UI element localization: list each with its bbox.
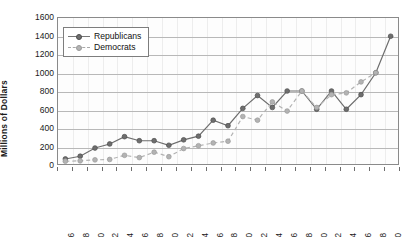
- x-axis-tick: 1983-84: [127, 233, 135, 237]
- x-axis-tick: 2013-14: [350, 233, 358, 237]
- y-axis-tick: 800: [24, 87, 54, 95]
- x-axis-tick-mark: [340, 167, 341, 171]
- x-axis-tick-mark: [354, 167, 355, 171]
- x-axis-tick: 1997-98: [231, 233, 239, 237]
- data-point-republicans: [152, 138, 157, 143]
- x-axis-tick: 2015-16: [365, 233, 373, 237]
- data-point-republicans: [226, 123, 231, 128]
- data-point-republicans: [240, 106, 245, 111]
- y-axis-tick: 400: [24, 124, 54, 132]
- x-axis-tick: 2001-02: [261, 233, 269, 237]
- x-axis-tick: 1991-92: [187, 233, 195, 237]
- y-axis-tick-labels: 16001400120010008006004002000: [20, 0, 54, 237]
- x-axis-tick: 1977-78: [83, 233, 91, 237]
- x-axis-tick-mark: [325, 167, 326, 171]
- x-axis-tick-mark: [399, 167, 400, 171]
- democrats-line-swatch: [68, 43, 90, 52]
- x-axis-tick-mark: [57, 167, 58, 171]
- data-point-democrats: [78, 158, 83, 163]
- x-axis-tick: 1979-80: [98, 233, 106, 237]
- data-point-democrats: [137, 155, 142, 160]
- y-axis-tick: 1000: [24, 69, 54, 77]
- y-axis-tick: 1600: [24, 13, 54, 21]
- data-point-republicans: [255, 93, 260, 98]
- data-point-republicans: [181, 137, 186, 142]
- y-axis-tick: 1400: [24, 32, 54, 40]
- x-axis-tick-mark: [206, 167, 207, 171]
- data-point-democrats: [196, 143, 201, 148]
- x-axis-tick-mark: [384, 167, 385, 171]
- x-axis-tick-mark: [280, 167, 281, 171]
- data-point-republicans: [388, 34, 393, 39]
- x-axis-tick: 2017-18: [380, 233, 388, 237]
- x-axis-tick: 2011-12: [335, 233, 343, 237]
- x-axis-tick-mark: [87, 167, 88, 171]
- republicans-line-swatch: [68, 32, 90, 41]
- data-point-republicans: [359, 92, 364, 97]
- x-axis-tick-mark: [131, 167, 132, 171]
- x-axis-tick: 2019-20: [395, 233, 403, 237]
- legend-label-republicans: Republicans: [94, 31, 141, 42]
- data-point-democrats: [255, 118, 260, 123]
- x-axis-tick: 1975-76: [68, 233, 76, 237]
- legend-label-democrats: Democrats: [94, 42, 136, 53]
- x-axis-tick: 2009-10: [321, 233, 329, 237]
- data-point-democrats: [285, 109, 290, 114]
- x-axis-tick: 2003-04: [276, 233, 284, 237]
- data-point-republicans: [93, 146, 98, 151]
- data-point-republicans: [196, 134, 201, 139]
- data-point-republicans: [107, 142, 112, 147]
- legend-item-republicans: Republicans: [68, 31, 141, 42]
- x-axis-tick-mark: [250, 167, 251, 171]
- data-point-democrats: [270, 100, 275, 105]
- data-point-democrats: [152, 150, 157, 155]
- data-point-republicans: [211, 118, 216, 123]
- series-line-democrats: [65, 73, 375, 161]
- x-axis-tick: 1985-86: [142, 233, 150, 237]
- x-axis-tick-mark: [146, 167, 147, 171]
- x-axis-tick-mark: [72, 167, 73, 171]
- x-axis-tick-mark: [221, 167, 222, 171]
- x-axis-tick: 1999-2000: [246, 233, 254, 237]
- x-axis-tick-mark: [102, 167, 103, 171]
- y-axis-tick: 0: [24, 161, 54, 169]
- data-point-democrats: [93, 157, 98, 162]
- data-point-democrats: [181, 146, 186, 151]
- data-point-republicans: [166, 143, 171, 148]
- x-axis-tick-mark: [265, 167, 266, 171]
- data-point-democrats: [314, 105, 319, 110]
- y-axis-tick: 600: [24, 106, 54, 114]
- data-point-democrats: [329, 92, 334, 97]
- y-axis-tick: 200: [24, 143, 54, 151]
- data-point-republicans: [78, 154, 83, 159]
- data-point-democrats: [107, 157, 112, 162]
- x-axis-tick-mark: [116, 167, 117, 171]
- y-axis-title: Millions of Dollars: [0, 0, 13, 237]
- data-point-republicans: [270, 105, 275, 110]
- x-axis-tick-labels: 1975-761977-781979-801981-821983-841985-…: [57, 167, 399, 237]
- x-axis-tick-mark: [176, 167, 177, 171]
- data-point-democrats: [359, 80, 364, 85]
- data-point-democrats: [344, 91, 349, 96]
- x-axis-tick-mark: [191, 167, 192, 171]
- data-point-republicans: [122, 134, 127, 139]
- data-point-republicans: [344, 107, 349, 112]
- y-axis-tick: 1200: [24, 50, 54, 58]
- x-axis-tick: 1981-82: [112, 233, 120, 237]
- x-axis-tick: 1995-96: [217, 233, 225, 237]
- chart-legend: Republicans Democrats: [63, 27, 149, 57]
- x-axis-tick-mark: [295, 167, 296, 171]
- data-point-republicans: [285, 89, 290, 94]
- data-point-democrats: [63, 159, 68, 164]
- x-axis-tick: 1989-90: [172, 233, 180, 237]
- x-axis-tick-mark: [161, 167, 162, 171]
- data-point-democrats: [166, 154, 171, 159]
- legend-item-democrats: Democrats: [68, 42, 141, 53]
- x-axis-tick-mark: [369, 167, 370, 171]
- data-point-democrats: [211, 141, 216, 146]
- x-axis-tick: 1993-94: [202, 233, 210, 237]
- x-axis-tick: 2005-06: [291, 233, 299, 237]
- x-axis-tick-mark: [235, 167, 236, 171]
- data-point-democrats: [226, 139, 231, 144]
- data-point-democrats: [240, 114, 245, 119]
